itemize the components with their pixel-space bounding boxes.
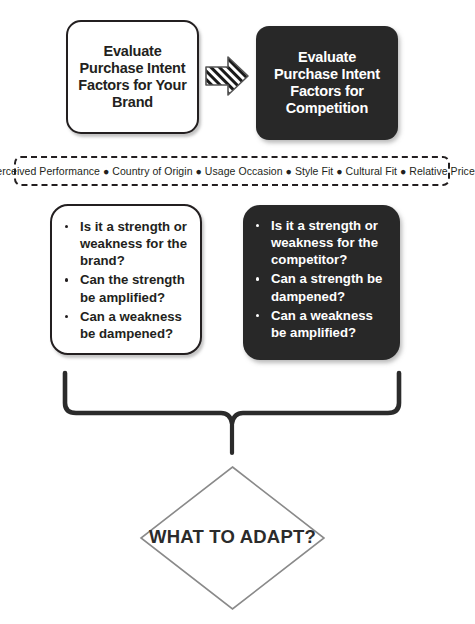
list-item: Is it a strength or weakness for the bra… xyxy=(60,218,190,269)
list-item: Can the strength be amplified? xyxy=(60,271,190,305)
list-item: Can a weakness be dampened? xyxy=(60,308,190,342)
brand-box-line-2: Purchase Intent xyxy=(74,60,191,77)
brand-box-line-3: Factors for Your xyxy=(74,77,191,94)
brand-box-line-1: Evaluate xyxy=(74,43,191,60)
process-box-brand-text: Evaluate Purchase Intent Factors for You… xyxy=(68,43,197,111)
list-item: Can a weakness be amplified? xyxy=(251,307,390,341)
question-box-brand[interactable]: Is it a strength or weakness for the bra… xyxy=(50,204,202,355)
process-box-evaluate-competition[interactable]: Evaluate Purchase Intent Factors for Com… xyxy=(256,26,398,140)
competition-box-line-1: Evaluate xyxy=(262,49,392,66)
outcome-label-container: WHAT TO ADAPT? xyxy=(139,522,326,552)
process-box-evaluate-brand[interactable]: Evaluate Purchase Intent Factors for You… xyxy=(66,20,199,134)
curly-brace-down-icon xyxy=(58,355,406,465)
purchase-intent-factors-band: Perceived Performance ● Country of Origi… xyxy=(14,156,450,186)
list-item: Is it a strength or weakness for the com… xyxy=(251,217,390,268)
question-box-competitor[interactable]: Is it a strength or weakness for the com… xyxy=(243,205,400,360)
competition-box-line-4: Competition xyxy=(262,100,392,117)
competition-box-line-3: Factors for xyxy=(262,83,392,100)
factors-list-text: Perceived Performance ● Country of Origi… xyxy=(0,165,475,177)
brand-question-list: Is it a strength or weakness for the bra… xyxy=(52,206,200,354)
brand-box-line-4: Brand xyxy=(74,94,191,111)
competitor-question-list: Is it a strength or weakness for the com… xyxy=(243,205,400,353)
process-box-competition-text: Evaluate Purchase Intent Factors for Com… xyxy=(256,49,398,117)
list-item: Can a strength be dampened? xyxy=(251,270,390,304)
hatched-right-arrow-icon xyxy=(203,53,251,99)
outcome-label: WHAT TO ADAPT? xyxy=(149,526,316,548)
competition-box-line-2: Purchase Intent xyxy=(262,66,392,83)
